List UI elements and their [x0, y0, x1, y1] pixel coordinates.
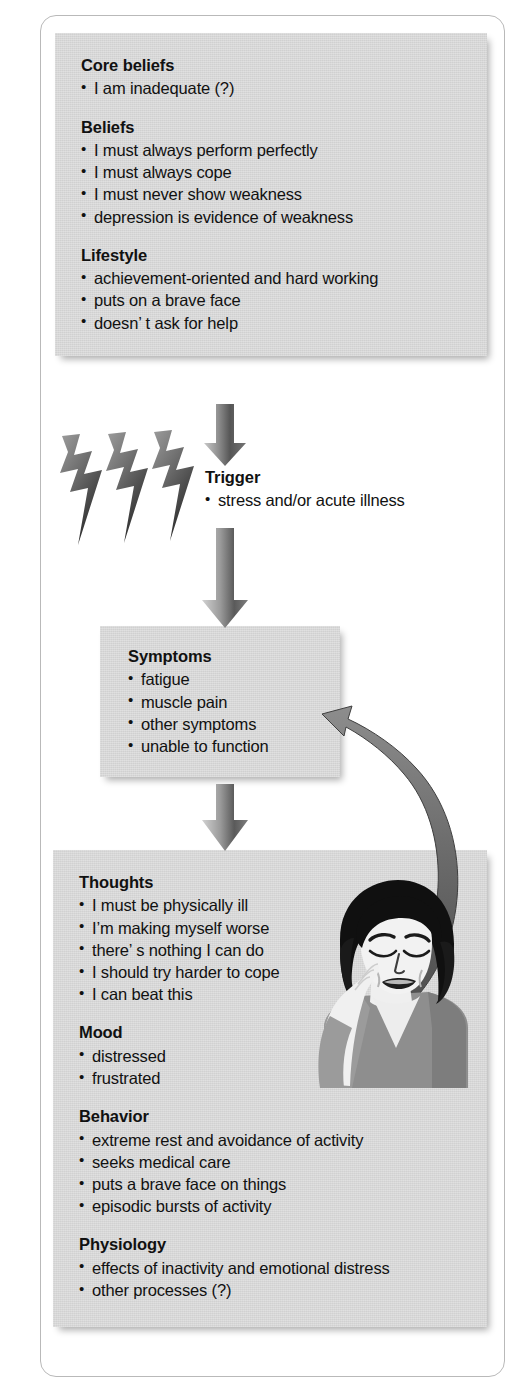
list-core-beliefs: I am inadequate (?) — [81, 77, 487, 99]
heading-physiology: Physiology — [79, 1234, 487, 1255]
heading-trigger: Trigger — [205, 467, 405, 488]
list-item: I must always cope — [81, 161, 487, 183]
group-symptoms: Symptoms fatigue muscle pain other sympt… — [128, 646, 340, 757]
list-item: I must always perform perfectly — [81, 139, 487, 161]
list-item: I must never show weakness — [81, 183, 487, 205]
heading-lifestyle: Lifestyle — [81, 245, 487, 266]
list-lifestyle: achievement-oriented and hard working pu… — [81, 267, 487, 334]
list-item: stress and/or acute illness — [205, 489, 405, 511]
list-item: other symptoms — [128, 713, 340, 735]
list-item: depression is evidence of weakness — [81, 206, 487, 228]
list-beliefs: I must always perform perfectly I must a… — [81, 139, 487, 228]
list-item: muscle pain — [128, 691, 340, 713]
down-arrow-beliefs-to-trigger — [204, 404, 246, 466]
list-item: I am inadequate (?) — [81, 77, 487, 99]
woman-illustration — [300, 878, 485, 1088]
list-item: extreme rest and avoidance of activity — [79, 1129, 487, 1151]
heading-core-beliefs: Core beliefs — [81, 55, 487, 76]
list-trigger: stress and/or acute illness — [205, 489, 405, 511]
panel-symptoms: Symptoms fatigue muscle pain other sympt… — [100, 626, 340, 777]
heading-beliefs: Beliefs — [81, 117, 487, 138]
list-item: effects of inactivity and emotional dist… — [79, 1257, 487, 1279]
panel-core-beliefs: Core beliefs I am inadequate (?) Beliefs… — [55, 33, 487, 356]
heading-symptoms: Symptoms — [128, 646, 340, 667]
group-physiology: Physiology effects of inactivity and emo… — [79, 1234, 487, 1301]
lightning-bolts — [60, 430, 194, 545]
group-core-beliefs: Core beliefs I am inadequate (?) — [81, 55, 487, 100]
list-item: seeks medical care — [79, 1151, 487, 1173]
group-beliefs: Beliefs I must always perform perfectly … — [81, 117, 487, 228]
list-item: unable to function — [128, 735, 340, 757]
list-item: puts on a brave face — [81, 289, 487, 311]
list-behavior: extreme rest and avoidance of activity s… — [79, 1129, 487, 1218]
group-lifestyle: Lifestyle achievement-oriented and hard … — [81, 245, 487, 334]
list-item: episodic bursts of activity — [79, 1195, 487, 1217]
list-item: achievement-oriented and hard working — [81, 267, 487, 289]
list-symptoms: fatigue muscle pain other symptoms unabl… — [128, 668, 340, 757]
group-trigger: Trigger stress and/or acute illness — [205, 467, 405, 512]
down-arrow-trigger-to-symptoms — [202, 528, 248, 628]
group-behavior: Behavior extreme rest and avoidance of a… — [79, 1106, 487, 1217]
list-item: doesn’ t ask for help — [81, 312, 487, 334]
list-item: puts a brave face on things — [79, 1173, 487, 1195]
list-item: other processes (?) — [79, 1279, 487, 1301]
down-arrow-symptoms-to-thoughts — [202, 784, 248, 851]
heading-behavior: Behavior — [79, 1106, 487, 1127]
list-physiology: effects of inactivity and emotional dist… — [79, 1257, 487, 1301]
list-item: fatigue — [128, 668, 340, 690]
